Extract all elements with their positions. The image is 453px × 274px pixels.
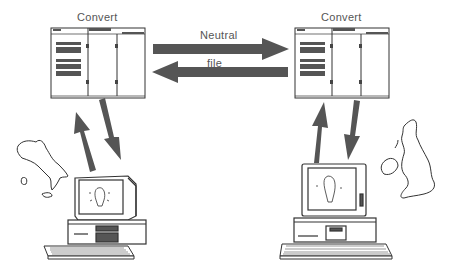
left-monitor [75, 176, 136, 220]
right-computer-icon [280, 164, 392, 259]
italy-map-icon [17, 140, 68, 197]
left-convert-panel [51, 28, 145, 98]
arrow-right-neutral-file [153, 38, 289, 60]
left-computer-icon [44, 176, 146, 259]
left-system-unit [68, 220, 146, 244]
arrow-up-left-computer [74, 112, 96, 172]
left-keyboard [44, 246, 134, 259]
arrow-down-left-computer [99, 98, 121, 160]
right-convert-panel [295, 28, 389, 98]
uk-map-icon [381, 120, 434, 198]
arrow-down-right-computer [344, 100, 360, 160]
arrow-up-right-computer [312, 102, 328, 163]
arrow-left-neutral-file [152, 61, 288, 83]
right-system-unit [294, 218, 376, 242]
right-monitor [302, 164, 366, 216]
right-keyboard [280, 244, 392, 259]
